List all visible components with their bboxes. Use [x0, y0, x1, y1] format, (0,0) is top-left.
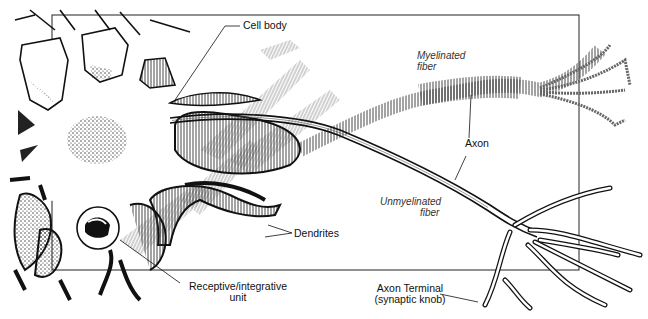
label-cell-body: Cell body	[243, 20, 287, 31]
label-unmyelinated: Unmyelinated	[380, 196, 441, 207]
label-myelinated-fiber: fiber	[417, 61, 436, 72]
label-axon: Axon	[465, 138, 489, 149]
neuron-illustration	[0, 0, 648, 319]
label-receptive-line2: unit	[183, 292, 293, 303]
neuron-diagram: Cell body Myelinated fiber Axon Unmyelin…	[0, 0, 648, 319]
label-dendrites: Dendrites	[294, 228, 339, 239]
label-unmyelinated-fiber: fiber	[420, 207, 439, 218]
label-receptive-unit: Receptive/integrative unit	[183, 281, 293, 303]
label-axon-terminal: Axon Terminal (synaptic knob)	[370, 283, 450, 305]
label-axon-terminal-line2: (synaptic knob)	[370, 294, 450, 305]
nucleus	[67, 116, 127, 164]
label-myelinated: Myelinated	[417, 50, 465, 61]
